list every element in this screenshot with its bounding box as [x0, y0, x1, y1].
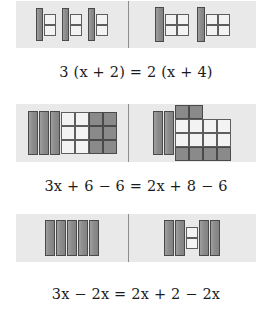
x-bar-tile: [164, 220, 174, 256]
unit-tile: [217, 119, 231, 133]
unit-tile-grid: [70, 14, 82, 36]
unit-tile-grid: [206, 14, 230, 36]
unit-tile: [75, 140, 89, 154]
tile-group: [62, 8, 82, 41]
negative-unit-tile: [103, 140, 117, 154]
unit-tile: [175, 133, 189, 147]
tile-group: [36, 8, 56, 41]
unit-tile: [206, 14, 218, 25]
negative-unit-tile: [203, 147, 217, 161]
unit-tile: [186, 227, 198, 238]
algebra-tile-figure: 3 (x + 2) = 2 (x + 4): [0, 0, 272, 313]
unit-tile: [70, 14, 82, 25]
unit-tile: [218, 14, 230, 25]
unit-tile: [218, 25, 230, 36]
balance-panel-step-1: [16, 1, 256, 48]
x-bar-tile: [67, 220, 77, 256]
equation-step-1: 3 (x + 2) = 2 (x + 4): [0, 64, 272, 80]
unit-tile: [61, 140, 75, 154]
unit-tile: [75, 126, 89, 140]
unit-tile-grid-dark: [89, 112, 117, 154]
negative-unit-tile: [217, 147, 231, 161]
x-bar-tile: [50, 111, 60, 155]
x-bar-tile: [153, 111, 163, 155]
negative-unit-tile: [89, 126, 103, 140]
unit-tile-grid: [165, 14, 189, 36]
x-bar-tile: [210, 220, 220, 256]
negative-unit-tile: [89, 112, 103, 126]
unit-tile: [44, 14, 56, 25]
negative-unit-tile: [175, 147, 189, 161]
unit-tile: [203, 133, 217, 147]
x-bar-tile: [164, 111, 174, 155]
x-bar-tile: [78, 220, 88, 256]
x-bar-tile: [56, 220, 66, 256]
unit-tile: [165, 14, 177, 25]
unit-tile: [61, 112, 75, 126]
negative-unit-tile: [103, 112, 117, 126]
tile-group: [45, 220, 99, 256]
unit-tile: [189, 119, 203, 133]
unit-tile: [189, 133, 203, 147]
unit-tile: [217, 133, 231, 147]
unit-tile: [75, 112, 89, 126]
tile-group: [153, 105, 231, 161]
negative-unit-tile: [189, 105, 203, 119]
tile-group: [28, 111, 117, 155]
tile-group: [164, 220, 220, 256]
unit-tile: [177, 14, 189, 25]
unit-tile: [206, 25, 218, 36]
unit-tile-stack: [175, 105, 231, 161]
balance-left-pan-step-3: [16, 214, 128, 262]
tile-group: [88, 8, 108, 41]
unit-tile: [175, 119, 189, 133]
negative-unit-tile: [189, 147, 203, 161]
unit-tile: [186, 238, 198, 249]
unit-tile-grid-light: [61, 112, 89, 154]
negative-unit-tile: [89, 140, 103, 154]
balance-right-pan-step-3: [128, 214, 256, 262]
balance-panel-step-2: [16, 104, 256, 162]
unit-tile: [96, 14, 108, 25]
x-bar-tile: [28, 111, 38, 155]
balance-left-pan-step-1: [16, 1, 128, 48]
balance-panel-step-3: [16, 214, 256, 262]
unit-tile: [177, 25, 189, 36]
x-bar-tile: [175, 220, 185, 256]
x-bar-tile: [36, 8, 43, 41]
equation-step-3: 3x − 2x = 2x + 2 − 2x: [0, 286, 272, 302]
x-bar-tile: [39, 111, 49, 155]
unit-tile-grid-light: [175, 119, 231, 147]
x-bar-tile: [199, 220, 209, 256]
unit-tile-grid: [44, 14, 56, 36]
dark-top-row: [175, 105, 231, 119]
x-bar-tile: [88, 8, 95, 41]
balance-right-pan-step-1: [128, 1, 256, 48]
equation-step-2: 3x + 6 − 6 = 2x + 8 − 6: [0, 178, 272, 194]
unit-tile-grid: [186, 227, 198, 249]
unit-tile: [44, 25, 56, 36]
unit-tile: [70, 25, 82, 36]
negative-unit-tile: [175, 105, 189, 119]
unit-tile: [96, 25, 108, 36]
x-bar-tile: [45, 220, 55, 256]
x-bar-tile: [89, 220, 99, 256]
tile-group: [197, 7, 230, 42]
x-bar-tile: [62, 8, 69, 41]
tile-group: [155, 7, 189, 42]
unit-tile-grid: [96, 14, 108, 36]
dark-bottom-row: [175, 147, 231, 161]
negative-unit-tile: [103, 126, 117, 140]
unit-tile: [61, 126, 75, 140]
x-bar-tile: [155, 7, 164, 42]
x-bar-tile: [197, 7, 205, 42]
balance-right-pan-step-2: [128, 104, 256, 162]
balance-left-pan-step-2: [16, 104, 128, 162]
unit-tile: [203, 119, 217, 133]
unit-tile: [165, 25, 177, 36]
